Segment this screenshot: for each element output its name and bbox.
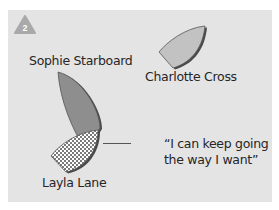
layla-lane-label: Layla Lane [42,175,106,190]
svg-text:2: 2 [22,23,27,33]
quote-connector-line [103,143,131,144]
charlotte-cross-label: Charlotte Cross [145,69,237,84]
charlotte-cross-boat-icon [155,22,225,72]
quote-line-2: the way I want” [164,152,268,168]
step-number-badge-icon: 2 [14,15,36,34]
layla-lane-boat-icon [48,128,108,176]
layla-lane-quote: “I can keep going the way I want” [164,136,268,168]
sophie-starboard-label: Sophie Starboard [29,53,133,68]
quote-line-1: “I can keep going [164,136,268,152]
